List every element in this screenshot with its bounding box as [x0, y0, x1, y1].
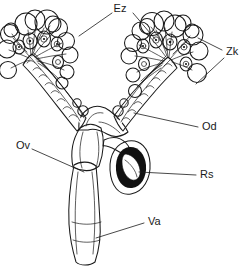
label-rs: Rs [200, 168, 214, 180]
leader-va [96, 223, 144, 238]
label-va: Va [148, 215, 162, 227]
leader-lines [32, 13, 224, 238]
leader-rs [139, 172, 196, 175]
label-od: Od [202, 120, 217, 132]
leader-zk-upper [198, 38, 222, 50]
figure-canvas: Ez Zk Od Ov Rs Va [0, 0, 247, 273]
left-lateral-oviduct [23, 53, 88, 131]
right-lateral-oviduct [113, 56, 177, 131]
leader-od [134, 113, 198, 127]
vagina [69, 162, 101, 265]
anatomical-diagram: Ez Zk Od Ov Rs Va [0, 0, 247, 273]
label-ez: Ez [114, 2, 127, 14]
spermatheca [103, 138, 150, 195]
leader-ez-left [79, 13, 112, 36]
right-ovariole-cluster [121, 11, 208, 98]
leader-ez-right [133, 13, 156, 40]
leader-ov [32, 149, 84, 172]
label-ov: Ov [16, 139, 31, 151]
leader-zk-lower [196, 58, 224, 84]
label-zk: Zk [226, 45, 239, 57]
